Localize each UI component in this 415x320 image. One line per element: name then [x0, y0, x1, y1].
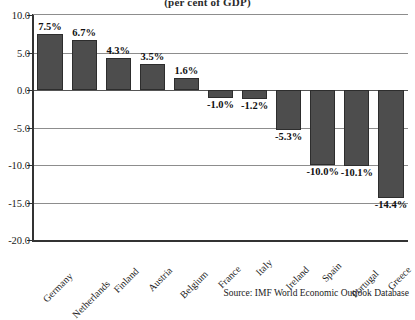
bar: [276, 90, 301, 130]
gridline: [33, 203, 408, 204]
y-axis-tick-label: 5.0: [0, 47, 30, 58]
bar: [378, 90, 403, 198]
bar-value-label: -5.3%: [266, 131, 312, 142]
x-axis-label: Italy: [253, 257, 274, 278]
x-axis-line: [32, 240, 408, 242]
x-axis-label: Belgium: [178, 268, 210, 300]
x-axis-label: Germany: [41, 270, 75, 304]
bar: [174, 78, 199, 90]
y-axis-tick-label: -15.0: [0, 197, 30, 208]
bar: [208, 90, 233, 98]
source-note: Source: IMF World Economic Outlook Datab…: [223, 288, 409, 298]
bar: [242, 90, 267, 99]
bar-value-label: -1.2%: [232, 100, 278, 111]
x-axis-label: Netherlands: [70, 278, 112, 320]
bar: [140, 64, 165, 90]
bar: [37, 34, 62, 90]
bar-value-label: 1.6%: [163, 65, 209, 76]
y-axis-tick-label: -5.0: [0, 122, 30, 133]
bar: [310, 90, 335, 165]
plot-frame-top: [33, 14, 408, 15]
x-axis-label: Spain: [319, 260, 343, 284]
y-axis-tick-label: -10.0: [0, 160, 30, 171]
bar-value-label: 6.7%: [61, 27, 107, 38]
y-axis-tick-label: 0.0: [0, 85, 30, 96]
bar: [344, 90, 369, 166]
chart-title: (per cent of GDP): [0, 0, 415, 8]
x-axis-label: Finland: [112, 266, 141, 295]
y-axis-tick-label: -20.0: [0, 235, 30, 246]
bar-value-label: -10.1%: [334, 167, 380, 178]
bar-value-label: -14.4%: [368, 199, 414, 210]
x-axis-label: Austria: [146, 265, 175, 294]
y-axis-tick-label: 10.0: [0, 10, 30, 21]
bar: [106, 58, 131, 90]
bar-value-label: 3.5%: [129, 51, 175, 62]
x-axis-label: France: [215, 263, 242, 290]
bar: [72, 40, 97, 90]
